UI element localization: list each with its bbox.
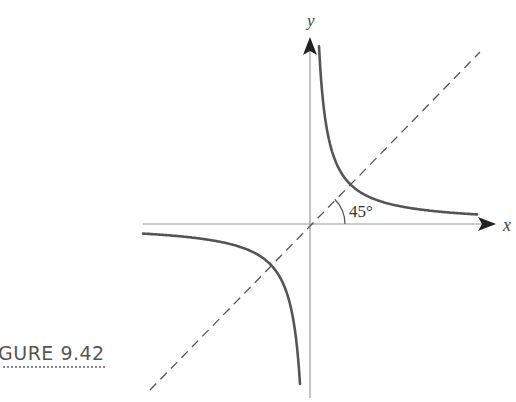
hyperbola-branch-q1 (319, 46, 477, 214)
angle-arc (335, 199, 345, 224)
x-axis-label: x (502, 215, 511, 235)
y-axis-label: y (305, 11, 315, 30)
hyperbola-branch-q3 (143, 234, 300, 384)
diagonal-dashed-line (150, 52, 480, 390)
figure-caption: GURE 9.42 (0, 342, 105, 368)
angle-label: 45° (349, 202, 373, 221)
